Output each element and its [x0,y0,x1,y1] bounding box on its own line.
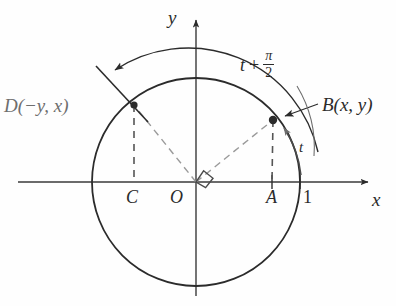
angle-operator: + [249,55,259,76]
angle-arc-t-plus-half-pi [115,48,318,152]
point-d-label: D(−y, x) [4,96,69,115]
leader-line-b [285,104,318,116]
point-a-label: A [266,188,277,206]
point-b-marker [269,116,277,124]
x-axis-label: x [372,190,380,209]
trigonometry-unit-circle-figure: y x D(−y, x) B(x, y) C O A 1 t t + π 2 [0,0,396,306]
figure-canvas [0,0,396,306]
perpendicular-b-to-a [272,120,273,181]
point-c-label: C [126,188,138,206]
point-d-marker [130,101,137,108]
angle-t-plus-half-pi-label: t + π 2 [240,50,274,81]
point-b-label: B(x, y) [322,95,373,114]
fraction-numerator: π [263,49,274,64]
fraction-denominator: 2 [263,65,274,80]
unit-tick-label: 1 [303,188,312,206]
half-pi-fraction: π 2 [263,49,274,80]
angle-term: t [240,55,245,76]
origin-label: O [170,188,183,206]
y-axis-label: y [168,8,176,27]
radius-ob [196,120,273,182]
right-angle-marker [196,171,213,188]
angle-t-label: t [299,140,303,155]
